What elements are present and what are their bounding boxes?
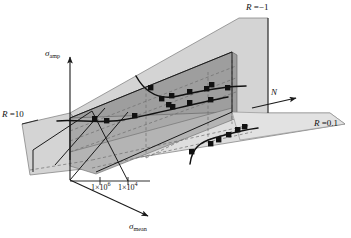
sigma-amp-axis-label: σamp [45,49,60,58]
plane-label-R-neg1: R =−1 [246,3,268,12]
fatigue-diagram-figure: R =−1 R =10 R =0.1 N σamp σmean 1×106 1×… [0,0,351,238]
sigma-mean-axis-label: σmean [129,222,147,231]
tick-label-1e4: 1×104 [118,184,138,192]
fatigue-diagram-canvas [0,0,351,238]
plane-label-R-01: R =0.1 [314,119,338,128]
tick-label-1e6: 1×106 [91,184,111,192]
plane-label-R-10: R =10 [2,110,24,119]
cycles-axis-label: N [271,88,277,97]
